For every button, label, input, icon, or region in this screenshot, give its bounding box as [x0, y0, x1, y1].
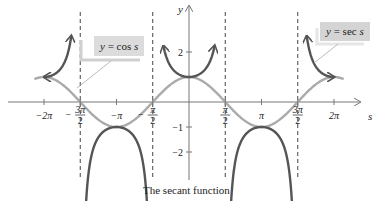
secant-chart: −2π−3π2−π−π2π2π3π22π2−1−2 y s y = cos s … [0, 0, 388, 201]
sec-label-callout: y = sec s [314, 22, 370, 63]
y-tick-label: 2 [178, 47, 183, 58]
x-tick-label: 3π2 [292, 104, 304, 126]
svg-text:2: 2 [150, 115, 155, 126]
sec-branch [307, 36, 334, 77]
x-axis-label: s [368, 110, 372, 122]
cos-label-text: y = cos s [99, 40, 138, 52]
x-tick-label: −π [111, 110, 124, 121]
y-axis-label: y [177, 3, 183, 15]
svg-text:3π: 3π [74, 104, 86, 115]
y-tick-label: −2 [172, 147, 183, 158]
sec-branch [84, 127, 149, 201]
svg-text:π: π [150, 104, 156, 115]
cos-label-callout: y = cos s [77, 36, 144, 88]
svg-text:−: − [138, 109, 144, 120]
sec-branch [229, 127, 294, 201]
y-tick-label: −1 [172, 122, 183, 133]
svg-text:2: 2 [295, 115, 300, 126]
sec-label-leader [314, 44, 338, 63]
chart-caption: The secant function [143, 184, 230, 196]
svg-text:2: 2 [78, 115, 83, 126]
sec-label-text: y = sec s [325, 25, 364, 37]
svg-text:3π: 3π [292, 104, 304, 115]
x-tick-label: 2π [329, 110, 340, 121]
x-tick-label: −2π [36, 110, 54, 121]
cos-label-leader [77, 61, 111, 88]
svg-text:−: − [65, 109, 71, 120]
x-tick-label: −3π2 [65, 104, 86, 126]
svg-text:2: 2 [223, 115, 228, 126]
sec-branch [44, 36, 71, 77]
x-tick-label: π [259, 110, 265, 121]
